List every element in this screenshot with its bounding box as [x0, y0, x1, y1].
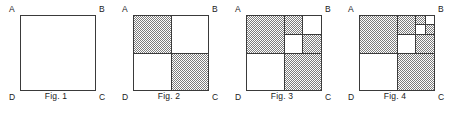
cell-tr-bottom-right	[416, 34, 435, 53]
square-abcd-figure-2	[133, 15, 209, 91]
corner-label-a: A	[9, 5, 15, 14]
corner-label-b: B	[325, 5, 331, 14]
cell-top-left	[134, 16, 172, 54]
figure-caption-3: Fig. 3	[226, 92, 338, 101]
figure-panel-3: A B D C	[226, 0, 338, 116]
cell-bottom-right	[171, 53, 209, 91]
square-abcd-figure-3	[246, 15, 322, 91]
square-abcd-figure-4	[359, 15, 435, 91]
figure-strip: A B D C Fig. 1 A B D C	[0, 0, 452, 116]
cell-top-left	[360, 16, 398, 54]
figure-caption-2: Fig. 2	[113, 92, 225, 101]
figure-caption-4: Fig. 4	[339, 92, 451, 101]
cell-tr-top-left	[284, 16, 303, 35]
corner-label-b: B	[438, 5, 444, 14]
corner-label-a: A	[235, 5, 241, 14]
cell-bottom-right	[284, 53, 322, 91]
cell-tr-top-left	[397, 16, 416, 35]
corner-label-a: A	[122, 5, 128, 14]
corner-label-b: B	[212, 5, 218, 14]
square-abcd-figure-1	[20, 15, 96, 91]
figure-panel-2: A B D C F	[113, 0, 225, 116]
figure-caption-1: Fig. 1	[0, 92, 112, 101]
corner-label-a: A	[348, 5, 354, 14]
cell-top-left	[247, 16, 285, 54]
corner-label-b: B	[99, 5, 105, 14]
cell-tr-tr-bottom-right	[425, 25, 434, 34]
cell-tr-tr-top-left	[416, 16, 425, 25]
figure-panel-4: A B D C	[339, 0, 451, 116]
cell-bottom-right	[397, 53, 435, 91]
figure-panel-1: A B D C Fig. 1	[0, 0, 112, 116]
cell-tr-bottom-right	[303, 34, 322, 53]
